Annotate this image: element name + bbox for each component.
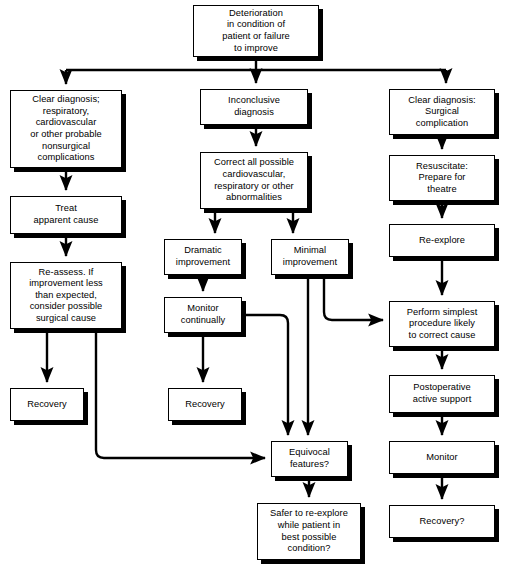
node-inconclusive-diagnosis[interactable]: Inconclusive diagnosis [200, 89, 308, 125]
node-resuscitate-prepare[interactable]: Resuscitate: Prepare for theatre [389, 155, 495, 201]
node-treat-apparent-cause[interactable]: Treat apparent cause [10, 196, 122, 234]
node-deterioration[interactable]: Deterioration in condition of patient or… [193, 5, 319, 57]
node-re-explore[interactable]: Re-explore [389, 224, 495, 257]
flowchart-canvas: Deterioration in condition of patient or… [0, 0, 512, 571]
node-monitor-continually[interactable]: Monitor continually [164, 297, 242, 333]
edge-monitor-to-equivocal [242, 315, 288, 435]
node-re-assess[interactable]: Re-assess. If improvement less than expe… [10, 262, 122, 329]
node-safer-to-re-explore[interactable]: Safer to re-explore while patient in bes… [257, 503, 361, 560]
node-equivocal-features[interactable]: Equivocal features? [271, 441, 348, 477]
node-clear-diagnosis-surgical[interactable]: Clear diagnosis: Surgical complication [389, 89, 495, 135]
node-clear-diagnosis-nonsurgical[interactable]: Clear diagnosis; respiratory, cardiovasc… [10, 90, 122, 168]
node-perform-simplest-procedure[interactable]: Perform simplest procedure likely to cor… [389, 301, 495, 347]
edge-minimal-to-perform [324, 275, 383, 320]
node-correct-all-possible[interactable]: Correct all possible cardiovascular, res… [200, 152, 308, 209]
node-recovery-center[interactable]: Recovery [168, 388, 242, 421]
node-recovery-left[interactable]: Recovery [10, 388, 84, 421]
node-dramatic-improvement[interactable]: Dramatic improvement [164, 239, 242, 275]
node-postoperative-active-support[interactable]: Postoperative active support [389, 375, 495, 413]
node-minimal-improvement[interactable]: Minimal improvement [271, 239, 349, 275]
node-recovery-right[interactable]: Recovery? [389, 505, 495, 538]
node-monitor-right[interactable]: Monitor [389, 441, 495, 474]
